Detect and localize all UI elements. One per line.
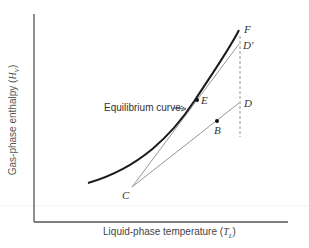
x-axis-label: Liquid-phase temperature (TL): [0, 226, 309, 240]
equilibrium-curve-text: Equilibrium curve: [104, 102, 181, 113]
diagram-svg: [0, 0, 309, 248]
y-axis-label-text: Gas-phase enthalpy (: [7, 80, 18, 176]
y-axis-subscript: V: [13, 68, 21, 72]
x-axis-label-text: Liquid-phase temperature (: [103, 226, 223, 237]
label-c: C: [122, 190, 129, 201]
y-axis-label-close: ): [7, 65, 18, 68]
x-axis-label-close: ): [233, 226, 236, 237]
label-d-prime: D′: [243, 40, 253, 51]
y-axis-label: Gas-phase enthalpy (HV): [7, 65, 21, 175]
label-d: D: [244, 98, 252, 109]
y-axis-symbol: H: [7, 72, 18, 79]
point-b-marker: [215, 119, 219, 123]
label-e: E: [201, 95, 208, 106]
enthalpy-temperature-diagram: Liquid-phase temperature (TL) Gas-phase …: [0, 0, 309, 248]
equilibrium-curve-annotation: Equilibrium curve: [104, 103, 181, 113]
point-e-marker: [195, 98, 199, 102]
label-b: B: [214, 125, 221, 136]
label-f: F: [244, 24, 251, 35]
